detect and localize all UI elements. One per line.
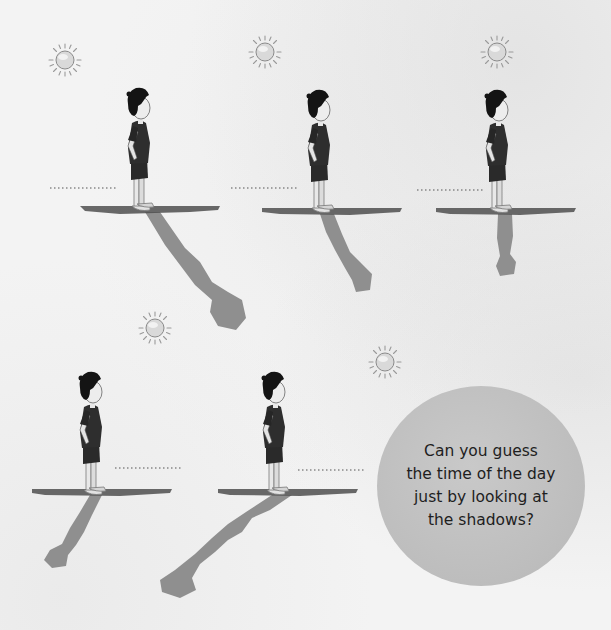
scene-3 [0, 0, 611, 340]
question-line-1: Can you guess [391, 440, 571, 463]
shadow-shape [496, 214, 516, 276]
sun-icon [369, 346, 401, 378]
sun-icon [481, 36, 513, 68]
shadow-shape [160, 495, 292, 598]
child-figure [485, 90, 513, 213]
question-line-4: the shadows? [391, 509, 571, 532]
question-line-2: the time of the day [391, 463, 571, 486]
question-text: Can you guess the time of the day just b… [391, 440, 571, 532]
question-line-3: just by looking at [391, 486, 571, 509]
child-figure [262, 372, 290, 495]
question-bubble: Can you guess the time of the day just b… [377, 386, 585, 586]
